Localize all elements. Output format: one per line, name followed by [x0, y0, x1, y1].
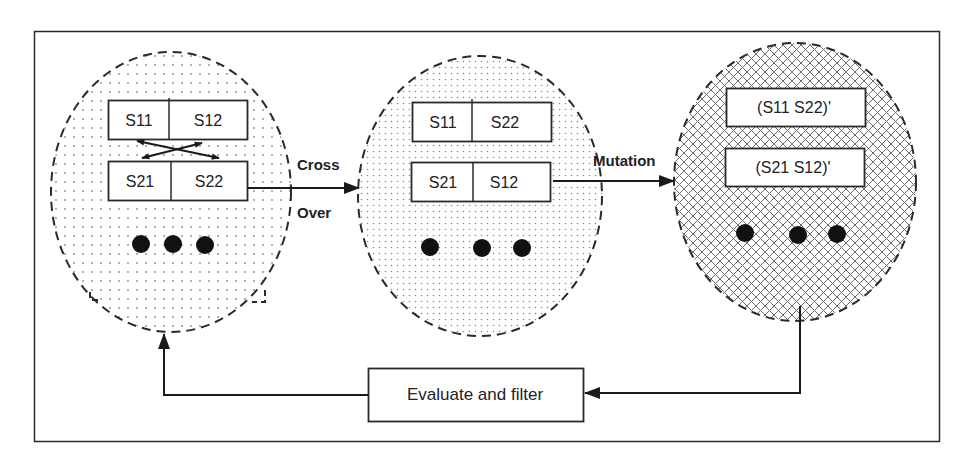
gene-label: S21: [126, 173, 155, 190]
chromosome-box: S11 S22: [413, 99, 552, 142]
gene-label: S22: [491, 114, 520, 131]
genetic-algorithm-diagram: S11 S12 S21 S22 S11 S22 S21: [0, 0, 972, 467]
crossover-label-line1: Cross: [297, 156, 340, 173]
chromosome-box: S11 S12: [109, 98, 248, 140]
gene-label: S12: [194, 112, 223, 129]
chromosome-label: (S21 S12)': [755, 159, 830, 176]
evaluate-filter-label: Evaluate and filter: [407, 385, 543, 404]
chromosome-box: (S21 S12)': [726, 149, 865, 187]
gene-label: S21: [429, 174, 458, 191]
chromosome-label: (S11 S22)': [757, 99, 831, 116]
chromosome-box: S21 S12: [412, 162, 551, 202]
crossover-label-line2: Over: [297, 204, 331, 221]
mutation-label: Mutation: [593, 152, 655, 169]
population-parents: S11 S12 S21 S22: [51, 52, 291, 332]
chromosome-box: S21 S22: [109, 161, 248, 201]
gene-label: S11: [125, 112, 152, 129]
population-mutated: (S11 S22)' (S21 S12)': [674, 43, 916, 321]
gene-label: S11: [429, 114, 456, 131]
ellipsis-dots-icon: [132, 235, 214, 254]
population-offspring: S11 S22 S21 S12: [358, 56, 602, 336]
gene-label: S12: [490, 174, 519, 191]
chromosome-box: (S11 S22)': [727, 89, 866, 127]
gene-label: S22: [195, 173, 224, 190]
